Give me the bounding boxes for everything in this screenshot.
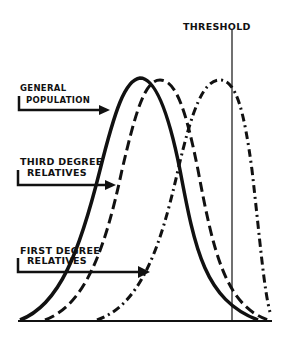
- general-population-label-2: POPULATION: [26, 95, 90, 105]
- third-degree-label-1: THIRD DEGREE: [20, 156, 103, 167]
- liability-threshold-diagram: THRESHOLD GENERAL POPULATION THIRD DEGRE…: [0, 0, 282, 339]
- threshold-label: THRESHOLD: [183, 21, 251, 32]
- first-degree-curve: [97, 80, 270, 320]
- general-population-label-1: GENERAL: [20, 83, 67, 93]
- first-degree-label-2: RELATIVES: [27, 255, 87, 266]
- third-degree-curve: [45, 80, 268, 320]
- third-degree-label-2: RELATIVES: [27, 167, 87, 178]
